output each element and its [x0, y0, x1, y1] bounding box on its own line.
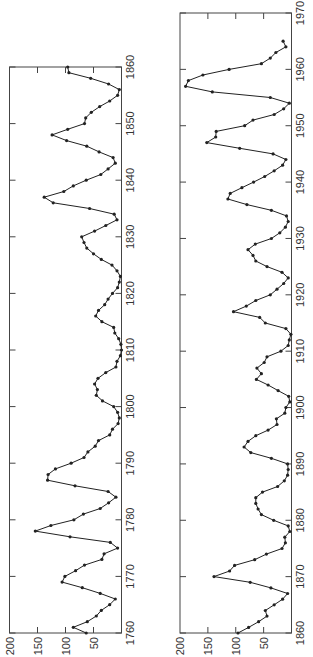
data-point-marker: [112, 156, 115, 159]
data-point-marker: [114, 496, 117, 499]
data-point-marker: [277, 389, 280, 392]
data-point-marker: [261, 491, 264, 494]
data-point-marker: [110, 264, 113, 267]
data-point-marker: [96, 388, 99, 391]
year-tick-label: 1760: [124, 621, 136, 645]
data-point-marker: [96, 377, 99, 380]
data-point-marker: [90, 111, 93, 114]
series-line: [35, 67, 121, 633]
data-point-marker: [107, 82, 110, 85]
data-point-marker: [246, 248, 249, 251]
data-point-marker: [116, 411, 119, 414]
data-point-marker: [108, 603, 111, 606]
data-point-marker: [100, 558, 103, 561]
data-point-marker: [287, 220, 290, 223]
data-point-marker: [273, 603, 276, 606]
data-point-marker: [108, 433, 111, 436]
data-point-marker: [103, 303, 106, 306]
year-tick-label: 1920: [294, 283, 306, 307]
data-point-marker: [211, 90, 214, 93]
data-point-marker: [267, 429, 270, 432]
data-point-marker: [284, 158, 287, 161]
data-point-marker: [72, 518, 75, 521]
data-point-marker: [282, 40, 285, 43]
data-point-marker: [280, 547, 283, 550]
data-point-marker: [73, 484, 76, 487]
value-tick-label: 200: [174, 637, 186, 655]
data-point-marker: [275, 288, 278, 291]
data-point-marker: [97, 309, 100, 312]
data-point-marker: [280, 271, 283, 274]
value-tick-label: 150: [32, 637, 44, 655]
data-point-marker: [112, 405, 115, 408]
data-point-marker: [99, 173, 102, 176]
data-point-marker: [88, 207, 91, 210]
year-tick-label: 1950: [294, 113, 306, 137]
value-tick-label: 50: [88, 637, 100, 649]
data-point-marker: [93, 382, 96, 385]
data-point-marker: [103, 552, 106, 555]
data-point-marker: [269, 57, 272, 60]
data-point-marker: [97, 439, 100, 442]
data-point-marker: [101, 399, 104, 402]
data-point-marker: [254, 496, 257, 499]
data-point-marker: [111, 292, 114, 295]
sunspot-figure: 5010015020017601770178017901800181018201…: [0, 0, 313, 657]
data-point-marker: [104, 371, 107, 374]
data-point-marker: [100, 258, 103, 261]
data-point-marker: [238, 147, 241, 150]
data-point-marker: [92, 252, 95, 255]
data-point-marker: [255, 367, 258, 370]
data-point-marker: [245, 203, 248, 206]
year-tick-label: 1970: [294, 1, 306, 25]
data-point-marker: [112, 326, 115, 329]
data-point-marker: [284, 541, 287, 544]
data-point-marker: [245, 305, 248, 308]
data-point-marker: [269, 96, 272, 99]
year-tick-label: 1790: [124, 451, 136, 475]
value-tick-label: 200: [4, 637, 16, 655]
data-point-marker: [287, 524, 290, 527]
data-point-marker: [74, 569, 77, 572]
data-point-marker: [252, 181, 255, 184]
data-point-marker: [215, 130, 218, 133]
data-point-marker: [116, 94, 119, 97]
data-point-marker: [260, 372, 263, 375]
data-point-marker: [226, 197, 229, 200]
data-point-marker: [116, 547, 119, 550]
data-point-marker: [49, 524, 52, 527]
data-point-marker: [270, 209, 273, 212]
data-point-marker: [70, 462, 73, 465]
data-point-marker: [258, 316, 261, 319]
data-point-marker: [273, 169, 276, 172]
data-point-marker: [120, 348, 123, 351]
data-point-marker: [267, 383, 270, 386]
data-point-marker: [265, 265, 268, 268]
data-point-marker: [54, 467, 57, 470]
data-point-marker: [114, 162, 117, 165]
data-point-marker: [283, 479, 286, 482]
data-point-marker: [251, 119, 254, 122]
data-point-marker: [65, 139, 68, 142]
data-point-marker: [113, 213, 116, 216]
data-point-marker: [34, 530, 37, 533]
data-point-marker: [85, 247, 88, 250]
data-point-marker: [260, 513, 263, 516]
data-point-marker: [104, 224, 107, 227]
data-point-marker: [288, 338, 291, 341]
data-point-marker: [279, 350, 282, 353]
data-point-marker: [288, 530, 291, 533]
data-point-marker: [272, 152, 275, 155]
year-tick-label: 1840: [124, 168, 136, 192]
year-tick-label: 1820: [124, 281, 136, 305]
data-point-marker: [236, 631, 239, 634]
data-point-marker: [275, 423, 278, 426]
data-point-marker: [111, 428, 114, 431]
data-point-marker: [254, 299, 257, 302]
data-point-marker: [107, 490, 110, 493]
data-point-marker: [284, 327, 287, 330]
series-line: [186, 41, 291, 633]
data-point-marker: [265, 355, 268, 358]
data-point-marker: [289, 333, 292, 336]
data-point-marker: [109, 541, 112, 544]
